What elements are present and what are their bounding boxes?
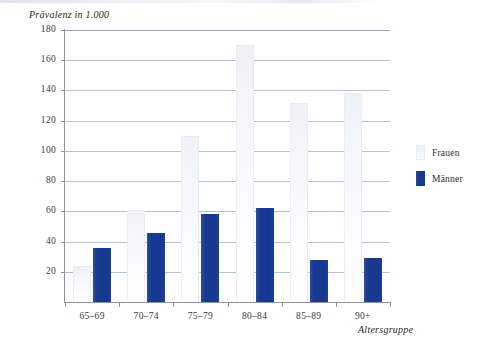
bar-männer-90+ [364,258,382,302]
x-tick-mark [282,302,283,307]
legend-item-maenner: Männer [416,169,463,188]
y-tick-label: 160 [41,54,56,64]
x-tick-label: 65–69 [65,311,119,321]
plot-area [65,30,390,302]
y-tick-label: 60 [46,205,56,215]
legend-label-maenner: Männer [432,174,463,184]
x-tick-label: 80–84 [228,311,282,321]
bar-chart: Prävalenz in 1.000 204060801001201401601… [0,0,485,340]
bar-männer-70-74 [147,233,165,303]
chart-legend: Frauen Männer [416,143,463,195]
x-tick-label: 85–89 [282,311,336,321]
x-tick-label: 70–74 [119,311,173,321]
x-tick-mark [173,302,174,307]
legend-swatch-maenner-icon [416,171,425,186]
y-tick-label: 100 [41,145,56,155]
y-tick-label: 20 [46,266,56,276]
bar-frauen-85-89 [290,103,308,302]
bar-frauen-65-69 [73,266,91,302]
x-tick-mark [119,302,120,307]
y-tick-label: 120 [41,115,56,125]
bar-frauen-75-79 [181,136,199,302]
x-tick-label: 90+ [336,311,390,321]
y-tick-label: 140 [41,84,56,94]
x-tick-label: 75–79 [173,311,227,321]
legend-item-frauen: Frauen [416,143,463,162]
x-axis-title: Altersgruppe [358,324,413,335]
x-tick-mark [65,302,66,307]
y-tick-label: 180 [41,24,56,34]
bar-frauen-70-74 [127,210,145,302]
y-axis-title: Prävalenz in 1.000 [29,9,109,20]
x-tick-mark [336,302,337,307]
bar-männer-75-79 [201,214,219,302]
bar-frauen-80-84 [236,45,254,302]
y-tick-label: 40 [46,236,56,246]
x-tick-mark [228,302,229,307]
y-tick-label: 80 [46,175,56,185]
bar-männer-65-69 [93,248,111,302]
bar-frauen-90+ [344,93,362,302]
legend-label-frauen: Frauen [432,148,460,158]
legend-swatch-frauen-icon [416,145,425,160]
x-tick-mark [390,302,391,307]
bar-männer-85-89 [310,260,328,302]
bar-männer-80-84 [256,208,274,302]
